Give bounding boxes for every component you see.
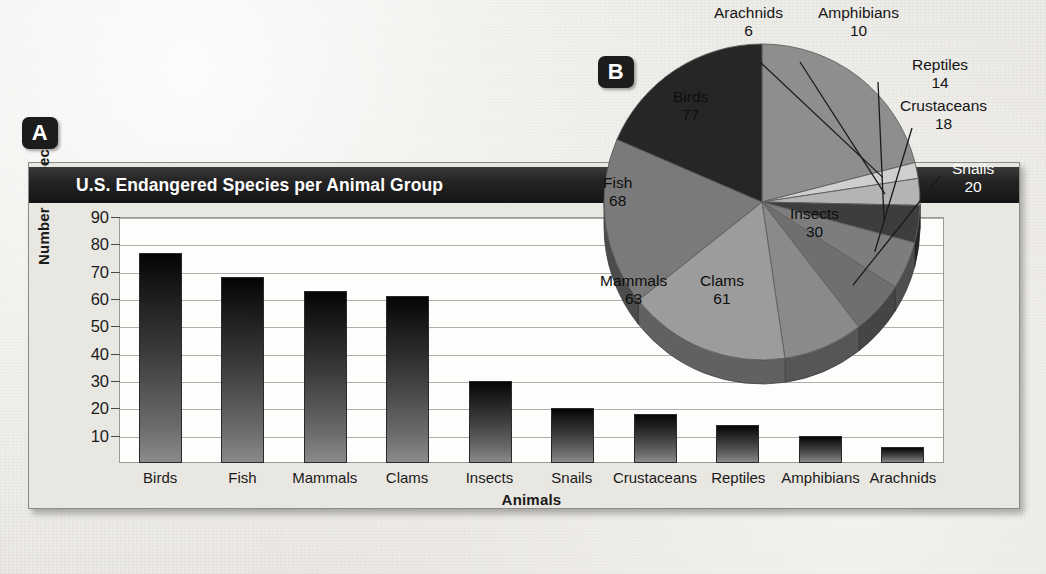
bar-slot <box>614 217 697 463</box>
y-tick-label: 90 <box>73 209 109 225</box>
bar-fish <box>221 277 264 463</box>
bar-series <box>119 217 944 463</box>
pie-label-name: Fish <box>603 174 632 192</box>
bar-slot <box>532 217 615 463</box>
bar-slot <box>697 217 780 463</box>
pie-label-value: 6 <box>714 22 783 40</box>
bar-slot <box>779 217 862 463</box>
bar-amphibians <box>799 436 842 463</box>
y-tick-label: 60 <box>73 291 109 307</box>
bar-crustaceans <box>634 414 677 463</box>
pie-label-name: Clams <box>700 272 744 290</box>
pie-label-snails: Snails20 <box>952 160 994 196</box>
panel-label-b: B <box>598 56 634 88</box>
pie-label-name: Amphibians <box>818 4 899 22</box>
x-tick-label: Reptiles <box>697 469 779 486</box>
bar-chart-plot-wrap: Number of species 908070605040302010 Bir… <box>29 203 1019 508</box>
pie-label-value: 18 <box>900 115 987 133</box>
pie-label-value: 77 <box>673 106 708 124</box>
pie-label-value: 20 <box>952 178 994 196</box>
y-tick-label: 80 <box>73 236 109 252</box>
y-tick-label: 50 <box>73 318 109 334</box>
pie-label-birds: Birds77 <box>673 88 708 124</box>
pie-label-value: 63 <box>600 290 667 308</box>
x-tick-label: Crustaceans <box>613 469 697 486</box>
bar-slot <box>284 217 367 463</box>
x-tick-label: Birds <box>119 469 201 486</box>
pie-label-mammals: Mammals63 <box>600 272 667 308</box>
y-axis-tick-labels: 908070605040302010 <box>73 213 109 471</box>
x-tick-label: Clams <box>366 469 448 486</box>
pie-label-amphibians: Amphibians10 <box>818 4 899 40</box>
chart-title: U.S. Endangered Species per Animal Group <box>29 167 1019 203</box>
bar-insects <box>469 381 512 463</box>
pie-label-name: Arachnids <box>714 4 783 22</box>
y-tick-label: 10 <box>73 428 109 444</box>
x-tick-label: Arachnids <box>862 469 944 486</box>
x-tick-label: Fish <box>201 469 283 486</box>
bar-birds <box>139 253 182 463</box>
x-tick-label: Snails <box>531 469 613 486</box>
pie-label-name: Mammals <box>600 272 667 290</box>
bar-reptiles <box>716 425 759 463</box>
pie-label-arachnids: Arachnids6 <box>714 4 783 40</box>
pie-label-value: 61 <box>700 290 744 308</box>
pie-label-clams: Clams61 <box>700 272 744 308</box>
bar-slot <box>862 217 945 463</box>
bar-slot <box>449 217 532 463</box>
y-tick-label: 40 <box>73 346 109 362</box>
bar-slot <box>202 217 285 463</box>
pie-label-value: 68 <box>603 192 632 210</box>
pie-label-value: 30 <box>790 223 839 241</box>
bar-snails <box>551 408 594 463</box>
pie-label-name: Snails <box>952 160 994 178</box>
bar-arachnids <box>881 447 924 463</box>
x-tick-label: Mammals <box>284 469 366 486</box>
x-axis-tick-labels: BirdsFishMammalsClamsInsectsSnailsCrusta… <box>119 469 944 486</box>
pie-label-insects: Insects30 <box>790 205 839 241</box>
pie-label-name: Reptiles <box>912 56 968 74</box>
bar-clams <box>386 296 429 463</box>
pie-label-crustaceans: Crustaceans18 <box>900 97 987 133</box>
pie-label-reptiles: Reptiles14 <box>912 56 968 92</box>
bar-mammals <box>304 291 347 463</box>
pie-label-name: Insects <box>790 205 839 223</box>
panel-label-a: A <box>22 117 58 149</box>
pie-label-value: 14 <box>912 74 968 92</box>
bar-slot <box>367 217 450 463</box>
y-tick-label: 20 <box>73 400 109 416</box>
bar-chart-panel: U.S. Endangered Species per Animal Group… <box>28 162 1020 509</box>
pie-label-name: Birds <box>673 88 708 106</box>
pie-label-value: 10 <box>818 22 899 40</box>
x-tick-label: Amphibians <box>779 469 861 486</box>
x-axis-title: Animals <box>119 491 944 508</box>
bar-slot <box>119 217 202 463</box>
pie-label-name: Crustaceans <box>900 97 987 115</box>
pie-label-fish: Fish68 <box>603 174 632 210</box>
x-tick-label: Insects <box>448 469 530 486</box>
y-tick-label: 70 <box>73 264 109 280</box>
y-tick-label: 30 <box>73 373 109 389</box>
